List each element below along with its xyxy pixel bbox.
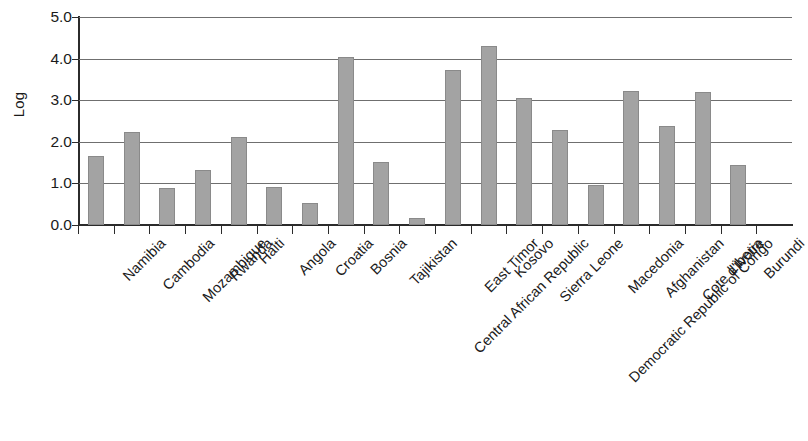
x-axis-tick-label: Tajikistan bbox=[407, 235, 460, 288]
x-axis-tick-mark bbox=[257, 226, 258, 234]
x-axis-tick-mark bbox=[685, 226, 686, 234]
bar bbox=[588, 185, 604, 225]
x-axis-tick-mark bbox=[399, 226, 400, 234]
x-axis-tick-mark bbox=[578, 226, 579, 234]
bar bbox=[481, 46, 497, 225]
x-axis-tick-mark bbox=[292, 226, 293, 234]
y-axis-tick-mark bbox=[72, 142, 79, 143]
bar bbox=[623, 91, 639, 225]
gridline bbox=[78, 183, 792, 184]
x-axis-tick-mark bbox=[542, 226, 543, 234]
bar bbox=[516, 98, 532, 225]
y-axis-tick-mark bbox=[72, 183, 79, 184]
x-axis-tick-mark bbox=[756, 226, 757, 234]
x-axis-tick-mark bbox=[721, 226, 722, 234]
y-axis-tick-labels: 0.01.02.03.04.05.0 bbox=[24, 0, 72, 441]
gridline bbox=[78, 17, 792, 18]
y-axis-tick-label: 1.0 bbox=[32, 176, 72, 192]
bar bbox=[124, 132, 140, 225]
y-axis-tick-mark bbox=[72, 17, 79, 18]
x-axis-tick-mark bbox=[506, 226, 507, 234]
gridline bbox=[78, 142, 792, 143]
bar bbox=[409, 218, 425, 225]
bar bbox=[231, 137, 247, 225]
x-axis-tick-mark bbox=[149, 226, 150, 234]
x-axis-tick-label: Namibia bbox=[119, 235, 168, 284]
x-axis-tick-mark bbox=[328, 226, 329, 234]
gridline bbox=[78, 59, 792, 60]
x-axis-tick-label: Croatia bbox=[332, 235, 376, 279]
y-axis-tick-label: 3.0 bbox=[32, 92, 72, 108]
bar bbox=[373, 162, 389, 225]
x-axis-tick-mark bbox=[114, 226, 115, 234]
plot-area bbox=[78, 17, 792, 225]
y-axis-tick-label: 5.0 bbox=[32, 9, 72, 25]
y-axis-tick-label: 4.0 bbox=[32, 51, 72, 67]
bar bbox=[159, 188, 175, 225]
x-axis-tick-label: Bosnia bbox=[367, 235, 410, 278]
gridline bbox=[78, 100, 792, 101]
bar bbox=[338, 57, 354, 225]
x-axis-tick-mark bbox=[78, 226, 79, 234]
bar bbox=[552, 130, 568, 225]
x-axis-tick-mark bbox=[614, 226, 615, 234]
bar bbox=[266, 187, 282, 225]
y-axis-tick-mark bbox=[72, 100, 79, 101]
bar bbox=[695, 92, 711, 225]
x-axis-tick-mark bbox=[221, 226, 222, 234]
bar bbox=[195, 170, 211, 225]
x-axis-tick-mark bbox=[364, 226, 365, 234]
y-axis-tick-label: 0.0 bbox=[32, 217, 72, 233]
x-axis-tick-mark bbox=[435, 226, 436, 234]
y-axis-tick-mark bbox=[72, 59, 79, 60]
bar bbox=[88, 156, 104, 225]
y-axis-tick-label: 2.0 bbox=[32, 134, 72, 150]
bar bbox=[302, 203, 318, 225]
bar bbox=[659, 126, 675, 225]
x-axis-tick-mark bbox=[649, 226, 650, 234]
x-axis-tick-mark bbox=[471, 226, 472, 234]
x-axis-tick-mark bbox=[185, 226, 186, 234]
bar bbox=[730, 165, 746, 225]
bar bbox=[445, 70, 461, 225]
x-axis-tick-label: Angola bbox=[296, 235, 339, 278]
